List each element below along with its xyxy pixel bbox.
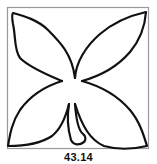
flower-pattern-diagram — [0, 0, 157, 164]
petal-top-right — [75, 12, 146, 81]
petal-bottom-left — [8, 81, 69, 146]
petal-top-left — [12, 13, 75, 81]
diagram-caption: 43.14 — [0, 151, 157, 164]
